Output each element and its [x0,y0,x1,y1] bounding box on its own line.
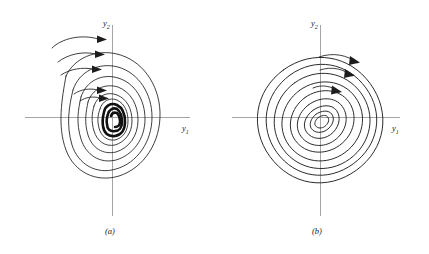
panel-b-arrow-2 [344,69,355,78]
panel-b-orbit-outer [233,33,406,206]
panel-b-y-axis-label: y2 [310,18,318,30]
panel-b: y2 y1 (b) [232,18,407,236]
panel-b-orbit-8 [313,113,332,131]
panel-a: y2 y1 (a) [25,18,190,236]
panel-b-orbit-4 [278,78,366,165]
panel-b-orbit-2 [256,55,389,187]
figure-canvas: y2 y1 (a) [0,0,429,254]
panel-b-x-axis-label: y1 [391,123,399,135]
panel-a-inflow-2 [58,53,96,62]
panel-a-spiral [61,53,160,178]
panel-a-arrow-2 [95,51,105,59]
panel-a-caption: (a) [105,226,115,236]
panel-b-caption: (b) [312,226,322,236]
panel-a-x-axis-label: y1 [181,123,189,135]
panel-b-orbit-6 [298,99,346,145]
panel-b-spiral [233,33,406,206]
panel-b-orbit-5 [289,89,356,155]
phase-portrait-figure: y2 y1 (a) [0,0,429,254]
panel-a-arrow-4 [97,87,107,95]
panel-b-orbit-1 [245,43,398,196]
panel-b-arrow-1 [349,56,360,65]
panel-b-arrow-3 [331,86,342,95]
panel-a-arrow-5 [99,95,109,103]
panel-a-y-axis-label: y2 [102,18,110,30]
panel-a-inflow-1 [52,37,98,48]
panel-a-arrow-1 [97,36,107,44]
panel-a-orbit-1 [69,66,152,171]
panel-a-inflow-3 [61,68,93,75]
panel-a-orbit-3 [86,86,138,153]
